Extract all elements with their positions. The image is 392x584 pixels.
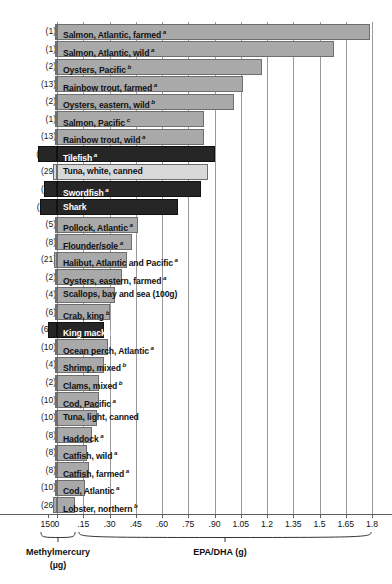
species-label: Tuna, light, canned bbox=[63, 412, 139, 423]
x-tick bbox=[83, 514, 84, 518]
x-tick-label: .75 bbox=[182, 519, 194, 530]
footnote-marker: a bbox=[99, 432, 104, 439]
footnote-marker: b bbox=[121, 361, 126, 368]
footnote-marker: b bbox=[132, 502, 137, 509]
x-tick bbox=[136, 514, 137, 518]
footnote-marker: b bbox=[104, 309, 109, 316]
epa-axis-caption: EPA/DHA (g) bbox=[145, 546, 295, 558]
chart-root: (1)Salmon, Atlantic, farmed a(1)Salmon, … bbox=[0, 0, 392, 584]
footnote-marker: a bbox=[149, 344, 154, 351]
mercury-axis-caption-line1: Methylmercury bbox=[2, 546, 114, 558]
bar-rows: (1)Salmon, Atlantic, farmed a(1)Salmon, … bbox=[0, 22, 392, 514]
epa-brace bbox=[78, 532, 372, 543]
x-tick-label: 150 bbox=[41, 519, 55, 530]
species-label: Tuna, white, canned bbox=[63, 166, 143, 177]
footnote-marker: a bbox=[118, 239, 123, 246]
footnote-marker: a bbox=[140, 133, 145, 140]
mercury-bar bbox=[38, 146, 57, 162]
x-tick bbox=[320, 514, 321, 518]
species-label: Scallops, bay and sea (100g) bbox=[63, 289, 177, 300]
mercury-bar bbox=[44, 181, 57, 197]
mercury-value-label: (10) bbox=[41, 395, 56, 406]
x-tick-label: .45 bbox=[130, 519, 142, 530]
footnote-marker: a bbox=[114, 484, 119, 491]
mercury-value-label: (10) bbox=[41, 482, 56, 493]
footnote-marker: a bbox=[112, 449, 117, 456]
x-tick-label: 1.65 bbox=[337, 519, 354, 530]
footnote-marker: a bbox=[152, 81, 157, 88]
x-tick-label: .15 bbox=[77, 519, 89, 530]
footnote-marker: b bbox=[126, 63, 131, 70]
footnote-marker: a bbox=[161, 28, 166, 35]
footnote-marker: c bbox=[125, 116, 130, 123]
footnote-marker: b bbox=[150, 98, 155, 105]
species-label: Shark bbox=[63, 202, 86, 213]
x-tick bbox=[241, 514, 242, 518]
x-tick bbox=[188, 514, 189, 518]
species-label: Lobster, northern b bbox=[63, 500, 138, 515]
x-tick-label: 1.05 bbox=[232, 519, 249, 530]
footnote-marker: a bbox=[111, 397, 116, 404]
mercury-bar bbox=[40, 199, 57, 215]
footnote-marker: a bbox=[149, 46, 154, 53]
x-tick-label: 1.2 bbox=[261, 519, 273, 530]
x-tick bbox=[57, 514, 58, 518]
footnote-marker: a bbox=[120, 326, 125, 333]
footnote-marker: a bbox=[104, 186, 109, 193]
x-tick-label: .30 bbox=[104, 519, 116, 530]
footnote-marker: a bbox=[128, 221, 133, 228]
x-tick bbox=[110, 514, 111, 518]
x-tick bbox=[346, 514, 347, 518]
footnote-marker: a bbox=[173, 256, 178, 263]
mercury-value-label: (13) bbox=[41, 131, 56, 142]
x-tick-label: 1.5 bbox=[314, 519, 326, 530]
mercury-axis-caption-line2: (µg) bbox=[2, 559, 114, 571]
mercury-bar bbox=[48, 322, 57, 338]
footnote-marker: b bbox=[117, 379, 122, 386]
footnote-marker: a bbox=[161, 274, 166, 281]
mercury-brace bbox=[40, 532, 76, 543]
x-tick-label: 1.35 bbox=[285, 519, 302, 530]
mercury-value-label: (10) bbox=[41, 342, 56, 353]
mercury-value-label: (10) bbox=[41, 412, 56, 423]
x-tick-label: .60 bbox=[156, 519, 168, 530]
x-tick bbox=[293, 514, 294, 518]
x-tick bbox=[267, 514, 268, 518]
footnote-marker: a bbox=[92, 151, 97, 158]
table-row: (26)Lobster, northern b bbox=[0, 496, 392, 516]
footnote-marker: a bbox=[124, 467, 129, 474]
x-tick-label: 1.8 bbox=[366, 519, 378, 530]
x-axis-ticks: 1500.15.30.45.60.75.901.051.21.351.51.65… bbox=[0, 514, 392, 534]
x-tick bbox=[372, 514, 373, 518]
x-tick-label: .90 bbox=[209, 519, 221, 530]
mercury-value-label: (13) bbox=[41, 79, 56, 90]
x-tick bbox=[162, 514, 163, 518]
x-tick bbox=[48, 514, 49, 518]
x-tick-label: 0 bbox=[55, 519, 60, 530]
x-tick bbox=[215, 514, 216, 518]
